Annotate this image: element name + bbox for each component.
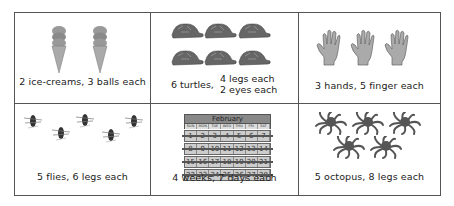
calendar-day-header: MON — [197, 124, 209, 129]
cell-octopus: 5 octopus, 8 legs each — [299, 104, 440, 195]
calendar-day-header: SAT — [258, 124, 270, 129]
cell-hands: 3 hands, 5 finger each — [299, 13, 440, 103]
cell-caption-left: 6 turtles, — [171, 79, 214, 90]
cell-caption: 2 ice-creams, 3 balls each — [15, 76, 150, 87]
calendar-week-row: 1234567 — [184, 130, 271, 142]
calendar-date: 5 — [234, 131, 246, 141]
ice-cream-icon — [49, 25, 69, 75]
calendar-date: 12 — [234, 144, 246, 154]
cell-caption: 5 octopus, 8 legs each — [299, 171, 440, 182]
cell-caption: 4 weeks, 7 days each — [151, 172, 298, 183]
turtle-icon — [236, 21, 272, 39]
turtle-icon — [202, 48, 238, 66]
calendar-date: 21 — [258, 157, 270, 167]
cell-calendar: February SUNMONTUEWEDTHUFRISAT 123456789… — [151, 104, 298, 195]
octopus-icon — [314, 112, 348, 136]
octopus-icon — [351, 112, 385, 136]
cell-ice-creams: 2 ice-creams, 3 balls each — [15, 13, 150, 103]
calendar-day-headers: SUNMONTUEWEDTHUFRISAT — [184, 124, 271, 129]
calendar-date: 3 — [209, 131, 221, 141]
fly-icon — [75, 111, 95, 129]
calendar-week-row: 15161718192021 — [184, 156, 271, 168]
cell-turtles: 6 turtles, 4 legs each 2 eyes each — [151, 13, 298, 103]
calendar-date: 2 — [197, 131, 209, 141]
calendar-week-row: 891011121314 — [184, 143, 271, 155]
calendar-date: 20 — [246, 157, 258, 167]
fly-icon — [51, 124, 71, 142]
cell-flies: 5 flies, 6 legs each — [15, 104, 150, 195]
octopus-icon — [388, 112, 422, 136]
fly-icon — [101, 126, 121, 144]
calendar-date: 11 — [221, 144, 233, 154]
calendar-date: 4 — [221, 131, 233, 141]
calendar-date: 1 — [185, 131, 197, 141]
hand-icon — [316, 29, 342, 67]
calendar-date: 10 — [209, 144, 221, 154]
multiplication-table-grid: 2 ice-creams, 3 balls each 6 turtles, 4 … — [14, 12, 441, 196]
calendar-date: 8 — [185, 144, 197, 154]
cell-caption: 3 hands, 5 finger each — [299, 80, 440, 91]
ice-cream-icon — [90, 25, 110, 75]
fly-icon — [23, 112, 43, 130]
octopus-icon — [332, 136, 366, 160]
calendar-date: 14 — [258, 144, 270, 154]
calendar-day-header: FRI — [246, 124, 258, 129]
cell-caption-right-2: 2 eyes each — [220, 84, 277, 95]
calendar-date: 18 — [221, 157, 233, 167]
octopus-icon — [369, 136, 403, 160]
calendar-date: 15 — [185, 157, 197, 167]
fly-icon — [124, 112, 144, 130]
turtle-icon — [169, 48, 205, 66]
turtle-icon — [236, 48, 272, 66]
cell-caption-right-1: 4 legs each — [220, 73, 274, 84]
calendar-date: 17 — [209, 157, 221, 167]
calendar-date: 16 — [197, 157, 209, 167]
calendar-date: 13 — [246, 144, 258, 154]
calendar-date: 7 — [258, 131, 270, 141]
hand-icon — [350, 29, 376, 67]
turtle-icon — [169, 21, 205, 39]
turtle-icon — [202, 21, 238, 39]
calendar-day-header: WED — [221, 124, 233, 129]
calendar-day-header: SUN — [185, 124, 197, 129]
calendar-month: February — [184, 114, 271, 124]
calendar-icon: February SUNMONTUEWEDTHUFRISAT 123456789… — [184, 114, 271, 181]
calendar-date: 6 — [246, 131, 258, 141]
calendar-date: 19 — [234, 157, 246, 167]
hand-icon — [384, 29, 410, 67]
calendar-day-header: TUE — [209, 124, 221, 129]
cell-caption: 5 flies, 6 legs each — [15, 171, 150, 182]
calendar-day-header: THU — [234, 124, 246, 129]
calendar-date: 9 — [197, 144, 209, 154]
